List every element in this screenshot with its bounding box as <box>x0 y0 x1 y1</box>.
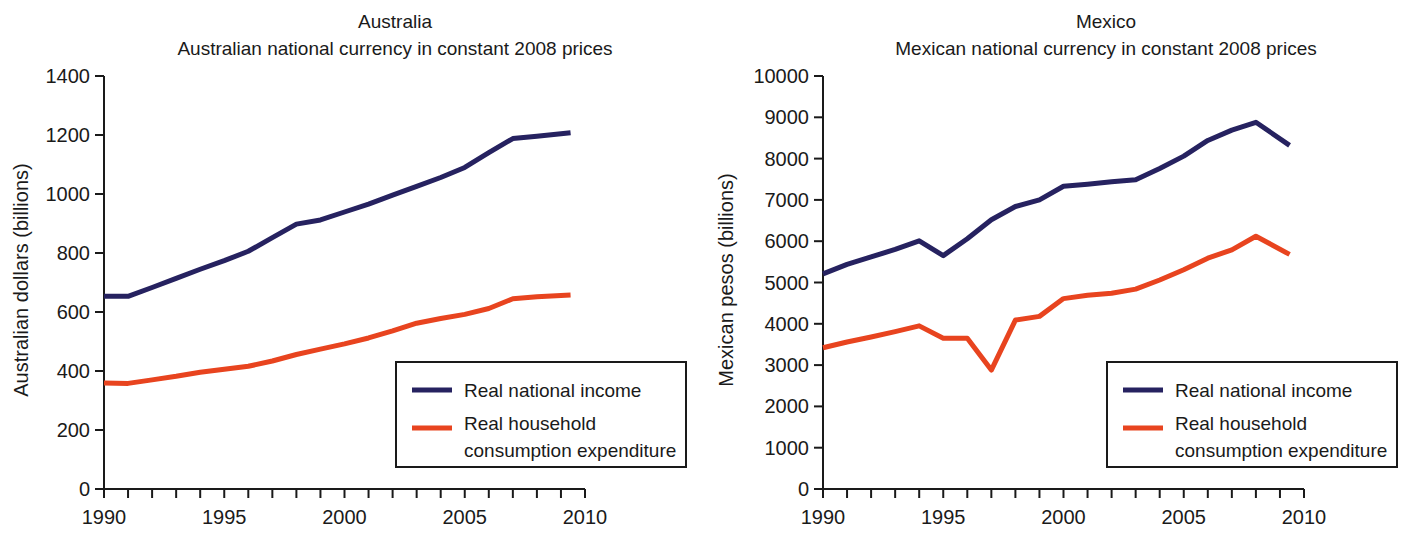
chart-panel-mexico: Mexico Mexican national currency in cons… <box>711 0 1422 547</box>
y-axis-tick-label: 1200 <box>46 124 91 146</box>
y-axis-tick-label: 800 <box>57 242 90 264</box>
legend-label-income: Real national income <box>464 380 641 401</box>
y-axis-tick-label: 8000 <box>765 148 810 170</box>
australia-chart-svg: Australia Australian national currency i… <box>0 0 711 547</box>
x-axis-tick-label: 2000 <box>1041 506 1086 528</box>
legend-mexico: Real national income Real household cons… <box>1107 362 1397 467</box>
y-axis-tick-label: 5000 <box>765 272 810 294</box>
chart-title-mexico: Mexico <box>1076 11 1136 32</box>
y-axis-tick-label: 200 <box>57 419 90 441</box>
series-line <box>823 122 1290 274</box>
chart-subtitle-australia: Australian national currency in constant… <box>177 38 612 59</box>
chart-subtitle-mexico: Mexican national currency in constant 20… <box>895 38 1316 59</box>
figure-root: Australia Australian national currency i… <box>0 0 1422 547</box>
y-axis-tick-label: 600 <box>57 301 90 323</box>
y-axis-tick-label: 10000 <box>753 65 809 87</box>
x-axis-tick-label: 2005 <box>443 506 488 528</box>
chart-panel-australia: Australia Australian national currency i… <box>0 0 711 547</box>
y-axis-tick-label: 400 <box>57 360 90 382</box>
mexico-chart-svg: Mexico Mexican national currency in cons… <box>711 0 1422 547</box>
y-axis-title-mexico: Mexican pesos (billions) <box>715 173 737 386</box>
x-axis-tick-label: 1995 <box>921 506 966 528</box>
y-axis-tick-label: 0 <box>798 478 809 500</box>
y-axis-tick-label: 0 <box>79 478 90 500</box>
legend-australia: Real national income Real household cons… <box>396 362 686 467</box>
y-axis-tick-label: 1000 <box>765 437 810 459</box>
y-axis-tick-label: 2000 <box>765 395 810 417</box>
x-axis-tick-label: 2010 <box>1282 506 1327 528</box>
y-axis-title-australia: Australian dollars (billions) <box>10 163 32 396</box>
series-line <box>104 133 571 297</box>
series-line <box>823 236 1290 370</box>
y-axis-tick-label: 9000 <box>765 106 810 128</box>
chart-title-australia: Australia <box>358 11 432 32</box>
y-axis-tick-label: 7000 <box>765 189 810 211</box>
legend-label-income: Real national income <box>1175 380 1352 401</box>
legend-label-consumption-line1: Real household <box>1175 413 1307 434</box>
legend-label-consumption-line2: consumption expenditure <box>1175 440 1387 461</box>
y-axis-tick-label: 1000 <box>46 183 91 205</box>
x-axis-tick-label: 1990 <box>82 506 127 528</box>
y-axis-tick-label: 6000 <box>765 230 810 252</box>
legend-label-consumption-line2: consumption expenditure <box>464 440 676 461</box>
x-axis-tick-label: 1995 <box>202 506 247 528</box>
y-axis-tick-label: 1400 <box>46 65 91 87</box>
legend-label-consumption-line1: Real household <box>464 413 596 434</box>
x-axis-tick-label: 1990 <box>801 506 846 528</box>
x-axis-tick-label: 2005 <box>1162 506 1207 528</box>
y-axis-tick-label: 4000 <box>765 313 810 335</box>
x-axis-tick-label: 2000 <box>322 506 367 528</box>
x-axis-tick-label: 2010 <box>563 506 608 528</box>
y-axis-tick-label: 3000 <box>765 354 810 376</box>
